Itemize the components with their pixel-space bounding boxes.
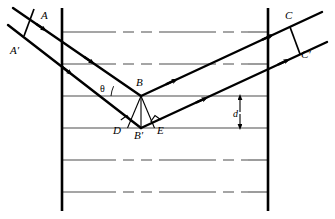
label-B: B	[136, 76, 143, 88]
incident-ray-A-prime	[8, 25, 141, 128]
d-spacing-label: d	[233, 108, 239, 119]
incident-ray-A	[13, 8, 141, 96]
bragg-diffraction-figure: θ d A A′ C C′ B B′ D E	[0, 0, 335, 219]
arrow-on-ray-C-prime	[196, 99, 205, 103]
diagram-canvas: θ d A A′ C C′ B B′ D E	[0, 0, 335, 219]
label-C-prime: C′	[301, 48, 311, 60]
label-C: C	[285, 9, 293, 21]
theta-label: θ	[100, 83, 105, 94]
label-A-prime: A′	[9, 44, 20, 56]
outgoing-wavefront	[290, 27, 300, 54]
arrow-on-ray-C2	[262, 36, 271, 40]
segment-E-to-B	[141, 96, 155, 128]
incident-ray-arrowheads	[36, 24, 92, 73]
right-angle-at-D	[121, 116, 132, 122]
arrow-on-ray-C-prime2	[278, 60, 287, 64]
label-E: E	[156, 124, 164, 136]
arrow-on-ray-C	[166, 80, 175, 84]
arrow-on-ray-A2	[84, 57, 92, 63]
arrow-on-ray-A	[36, 24, 44, 30]
label-D: D	[112, 124, 121, 136]
label-A: A	[40, 9, 48, 21]
label-B-prime: B′	[134, 129, 144, 141]
theta-angle-arc	[111, 86, 114, 96]
